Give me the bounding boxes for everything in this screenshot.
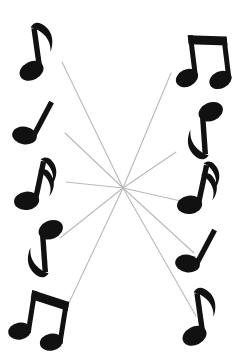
figure-canvas: Eighth noteBeamed pair of eighth notesQu… [0, 0, 240, 360]
music-notes-figure: Radial arrangement of musical notes [0, 0, 240, 360]
